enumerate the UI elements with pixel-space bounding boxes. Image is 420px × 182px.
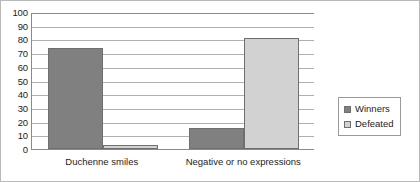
x-axis-label-duchenne: Duchenne smiles bbox=[31, 156, 173, 167]
y-tick-label: 60 bbox=[2, 63, 28, 73]
legend-item-defeated: Defeated bbox=[344, 118, 394, 130]
y-tick-label: 90 bbox=[2, 22, 28, 32]
gridline bbox=[32, 13, 314, 14]
y-tick-label: 50 bbox=[2, 77, 28, 87]
plot-area bbox=[31, 13, 314, 150]
legend-item-label: Defeated bbox=[355, 119, 394, 129]
legend-item-label: Winners bbox=[355, 104, 390, 114]
y-tick-label: 80 bbox=[2, 35, 28, 45]
y-tick-label: 40 bbox=[2, 90, 28, 100]
legend-swatch-icon bbox=[344, 106, 351, 113]
bar-duchenne-winners bbox=[48, 48, 103, 149]
y-tick-label: 100 bbox=[2, 8, 28, 18]
gridline bbox=[32, 27, 314, 28]
y-tick-label: 30 bbox=[2, 104, 28, 114]
legend-item-winners: Winners bbox=[344, 103, 394, 115]
x-axis-label-negative: Negative or no expressions bbox=[173, 156, 315, 167]
y-tick-label: 10 bbox=[2, 131, 28, 141]
y-tick-label: 0 bbox=[2, 145, 28, 155]
bar-negative-defeated bbox=[244, 38, 299, 149]
bar-duchenne-defeated bbox=[103, 145, 158, 149]
legend-swatch-icon bbox=[344, 121, 351, 128]
y-tick-label: 70 bbox=[2, 49, 28, 59]
y-tick-label: 20 bbox=[2, 118, 28, 128]
bar-negative-winners bbox=[189, 128, 244, 149]
bar-chart-figure: 100 90 80 70 60 50 40 30 20 10 0 Duchenn… bbox=[0, 0, 420, 182]
legend: Winners Defeated bbox=[338, 97, 401, 136]
y-axis: 100 90 80 70 60 50 40 30 20 10 0 bbox=[1, 13, 28, 150]
